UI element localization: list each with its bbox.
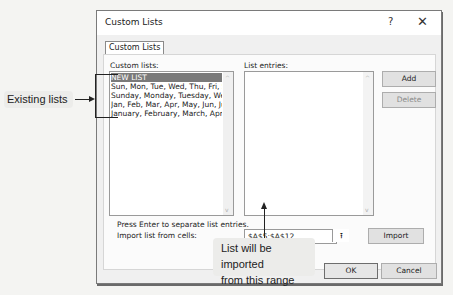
list-entries-label: List entries: [244, 61, 288, 70]
custom-lists-listbox[interactable]: NEW LIST Sun, Mon, Tue, Wed, Thu, Fri, S… [109, 71, 234, 216]
custom-lists-scrollbar[interactable]: ^ v [223, 72, 233, 215]
callout-arrow-line [264, 206, 265, 238]
callout-arrowhead [261, 202, 267, 209]
scroll-down-icon[interactable]: v [225, 206, 229, 213]
scroll-up-icon[interactable]: ^ [365, 74, 370, 81]
hint-text: Press Enter to separate list entries. [117, 220, 249, 229]
ok-button[interactable]: OK [324, 263, 378, 279]
scroll-up-icon[interactable]: ^ [225, 74, 230, 81]
list-item[interactable]: January, February, March, April [111, 109, 222, 118]
list-entries-scrollbar[interactable]: ^ v [363, 72, 373, 215]
scroll-down-icon[interactable]: v [365, 206, 369, 213]
tab-custom-lists[interactable]: Custom Lists [105, 41, 164, 55]
list-item[interactable]: Jan, Feb, Mar, Apr, May, Jun, Jul [111, 100, 222, 109]
existing-lists-callout: Existing lists [4, 91, 73, 108]
list-item[interactable]: Sun, Mon, Tue, Wed, Thu, Fri, Sat [111, 82, 222, 91]
list-item[interactable]: NEW LIST [111, 73, 222, 82]
callout-arrow-line [75, 99, 89, 100]
custom-lists-label: Custom lists: [110, 61, 159, 70]
dialog-title: Custom Lists [105, 17, 163, 27]
callout-line-1: List will be imported [221, 240, 315, 272]
delete-button[interactable]: Delete [382, 92, 436, 108]
add-button[interactable]: Add [382, 71, 436, 87]
collapse-dialog-icon[interactable]: ⭱ [332, 229, 349, 242]
help-icon[interactable]: ? [388, 16, 393, 27]
existing-lists-bracket [95, 74, 118, 118]
callout-line-2: from this range [221, 272, 315, 288]
import-button[interactable]: Import [368, 228, 424, 244]
list-item[interactable]: Sunday, Monday, Tuesday, Wednesday [111, 91, 222, 100]
import-range-callout: List will be imported from this range [213, 238, 315, 276]
close-icon[interactable]: ✕ [417, 14, 428, 29]
title-bar: Custom Lists ? ✕ [97, 11, 441, 35]
list-entries-textarea[interactable]: ^ v [244, 71, 374, 216]
import-list-label: Import list from cells: [117, 231, 197, 240]
cancel-button[interactable]: Cancel [381, 263, 437, 279]
